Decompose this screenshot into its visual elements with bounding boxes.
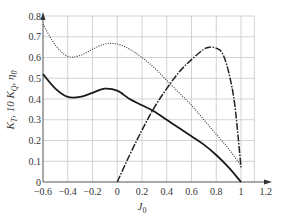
x-axis-arrow-icon: [264, 180, 272, 185]
x-tick-label: 0.8: [210, 186, 223, 197]
x-tick-label: 0.6: [185, 186, 198, 197]
grid-layer: [43, 16, 254, 182]
x-tick-label: 1: [239, 186, 244, 197]
x-axis-label: J0: [138, 200, 147, 215]
y-tick-label: 0.3: [29, 114, 42, 125]
x-tick-label: −0.2: [83, 186, 101, 197]
x-tick-label: −0.4: [59, 186, 77, 197]
y-axis-label: KT, 10 KQ, η0: [4, 70, 19, 130]
x-tick-label: 0.4: [161, 186, 174, 197]
x-tick-label: 0: [115, 186, 120, 197]
y-tick-label: 0.6: [29, 52, 42, 63]
x-tick-label: 0.2: [136, 186, 149, 197]
y-tick-label: 0.5: [29, 73, 42, 84]
chart: −0.6−0.4−0.200.20.40.60.811.200.10.20.30…: [0, 0, 282, 220]
y-tick-label: 0.8: [29, 11, 42, 22]
y-tick-label: 0.1: [29, 156, 42, 167]
y-tick-label: 0.2: [29, 135, 42, 146]
ticks-layer: −0.6−0.4−0.200.20.40.60.811.200.10.20.30…: [29, 11, 273, 198]
x-tick-label: −0.6: [34, 186, 52, 197]
y-tick-label: 0: [36, 177, 41, 188]
x-tick-label: 1.2: [260, 186, 273, 197]
y-tick-label: 0.7: [29, 31, 42, 42]
y-tick-label: 0.4: [29, 94, 42, 105]
